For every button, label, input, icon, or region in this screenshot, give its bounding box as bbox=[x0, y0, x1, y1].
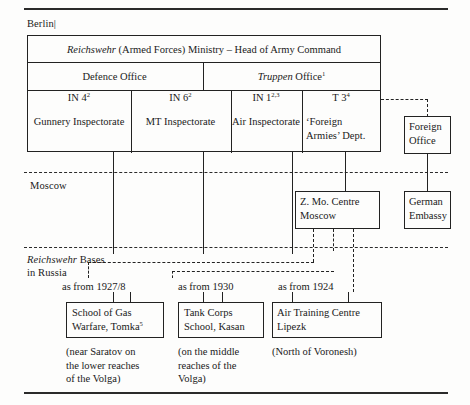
dept-t3-line2: Armies’ Dept. bbox=[306, 129, 380, 143]
drop-foreignoffice-embassy bbox=[427, 154, 428, 192]
office-defence: Defence Office bbox=[27, 70, 202, 83]
dept-in4-sup: 2 bbox=[87, 91, 90, 98]
german-embassy-line1: German bbox=[409, 195, 453, 209]
note-tomka: (near Saratov on the lower reaches of th… bbox=[66, 345, 176, 386]
tomka-text: School of Gas Warfare, Tomka5 bbox=[72, 306, 167, 333]
dept-t3-sup: 4 bbox=[346, 91, 349, 98]
connector-t3-foreignoffice-h bbox=[381, 99, 428, 100]
zmo-branch-v-right bbox=[313, 229, 314, 262]
zmo-branch-h-kasan bbox=[172, 271, 334, 272]
z-mo-centre-text: Z. Mo. Centre Moscow bbox=[300, 195, 380, 222]
connector-t3-foreignoffice-v bbox=[427, 99, 428, 117]
drop-t3-zmo bbox=[345, 152, 346, 192]
stem-lipezk-left bbox=[292, 292, 293, 302]
ministry-rest: (Armed Forces) Ministry – Head of Army C… bbox=[116, 44, 341, 55]
zmo-branch-v-mid bbox=[333, 229, 334, 251]
grid-hline-1 bbox=[28, 62, 380, 63]
z-mo-centre-line2: Moscow bbox=[300, 209, 380, 223]
zmo-branch-h-tomka bbox=[88, 262, 314, 263]
region-label-moscow: Moscow bbox=[30, 180, 67, 193]
stem-tomka-left bbox=[113, 292, 114, 302]
dept-code-in1: IN 12,3 bbox=[231, 91, 301, 104]
dept-code-t3: T 34 bbox=[302, 91, 380, 104]
top-rule bbox=[24, 8, 448, 10]
note-kasan-line1: (on the middle bbox=[178, 345, 278, 359]
note-lipezk: (North of Voronesh) bbox=[272, 345, 402, 359]
note-tomka-line2: the lower reaches bbox=[66, 359, 176, 373]
separator-berlin-moscow bbox=[24, 172, 448, 173]
stem-lipezk-right bbox=[348, 292, 349, 302]
dept-in6-code: IN 6 bbox=[169, 92, 188, 103]
since-label-lipezk: as from 1924 bbox=[278, 280, 333, 294]
region-label-bases: Reichswehr Bases in Russia bbox=[27, 254, 105, 279]
note-tomka-line3: of the Volga) bbox=[66, 372, 176, 386]
drop-in4 bbox=[113, 152, 114, 254]
dept-name-in1: Air Inspectorate bbox=[231, 115, 301, 128]
zmo-branch-v-tomka bbox=[88, 262, 89, 278]
foreign-office-line2: Office bbox=[409, 134, 453, 148]
office-truppen-italic: Truppen bbox=[258, 71, 293, 82]
region-label-berlin: Berlin| bbox=[27, 18, 56, 31]
note-tomka-line1: (near Saratov on bbox=[66, 345, 176, 359]
office-truppen: Truppen Office1 bbox=[202, 70, 381, 83]
tomka-sup: 5 bbox=[140, 319, 143, 326]
dept-t3-line1: ‘Foreign bbox=[306, 115, 380, 129]
drop-in1 bbox=[292, 152, 293, 254]
lipezk-line1: Air Training Centre bbox=[277, 306, 385, 320]
tomka-line2-wrap: Warfare, Tomka5 bbox=[72, 320, 167, 334]
note-lipezk-line1: (North of Voronesh) bbox=[272, 345, 402, 359]
foreign-office-text: Foreign Office bbox=[409, 120, 453, 147]
kasan-line1: Tank Corps bbox=[184, 306, 268, 320]
note-kasan-line2: reaches of the bbox=[178, 359, 278, 373]
since-label-kasan: as from 1930 bbox=[178, 280, 233, 294]
organisation-chart: Berlin| Reichswehr (Armed Forces) Minist… bbox=[0, 0, 470, 405]
kasan-line2: School, Kasan bbox=[184, 320, 268, 334]
tomka-line1: School of Gas bbox=[72, 306, 167, 320]
bases-label-line2: in Russia bbox=[27, 267, 105, 280]
foreign-office-line1: Foreign bbox=[409, 120, 453, 134]
bottom-rule bbox=[24, 392, 448, 394]
stem-kasan-right bbox=[222, 292, 223, 302]
z-mo-centre-line1: Z. Mo. Centre bbox=[300, 195, 380, 209]
dept-name-in4: Gunnery Inspectorate bbox=[28, 115, 130, 128]
separator-moscow-bases bbox=[24, 247, 448, 248]
bases-label-italic: Reichswehr bbox=[27, 254, 77, 265]
dept-name-t3: ‘Foreign Armies’ Dept. bbox=[306, 115, 380, 142]
stem-tomka-right bbox=[130, 292, 131, 302]
office-truppen-label: Office bbox=[293, 71, 322, 82]
german-embassy-text: German Embassy bbox=[409, 195, 453, 222]
german-embassy-line2: Embassy bbox=[409, 209, 453, 223]
ministry-row: Reichswehr (Armed Forces) Ministry – Hea… bbox=[27, 43, 381, 56]
dept-t3-code: T 3 bbox=[332, 92, 346, 103]
zmo-branch-v-kasan bbox=[172, 271, 173, 278]
dept-in1-sup: 2,3 bbox=[271, 91, 279, 98]
ministry-italic: Reichswehr bbox=[67, 44, 116, 55]
tomka-line2: Warfare, Tomka bbox=[72, 321, 140, 332]
dept-code-in6: IN 62 bbox=[131, 91, 230, 104]
drop-in6 bbox=[203, 152, 204, 254]
office-truppen-sup: 1 bbox=[322, 70, 325, 77]
office-defence-label: Defence Office bbox=[82, 71, 146, 82]
lipezk-text: Air Training Centre Lipezk bbox=[277, 306, 385, 333]
bases-label-rest: Bases bbox=[77, 254, 105, 265]
stem-kasan-left bbox=[203, 292, 204, 302]
dept-name-in6: MT Inspectorate bbox=[131, 115, 230, 128]
lipezk-line2: Lipezk bbox=[277, 320, 385, 334]
note-kasan: (on the middle reaches of the Volga) bbox=[178, 345, 278, 386]
dept-in6-sup: 2 bbox=[188, 91, 191, 98]
dept-in1-code: IN 1 bbox=[252, 92, 271, 103]
dept-code-in4: IN 42 bbox=[28, 91, 130, 104]
dept-in4-code: IN 4 bbox=[68, 92, 87, 103]
kasan-text: Tank Corps School, Kasan bbox=[184, 306, 268, 333]
note-kasan-line3: Volga) bbox=[178, 372, 278, 386]
since-label-tomka: as from 1927/8 bbox=[62, 280, 126, 294]
zmo-branch-v-lipezk bbox=[353, 229, 354, 292]
